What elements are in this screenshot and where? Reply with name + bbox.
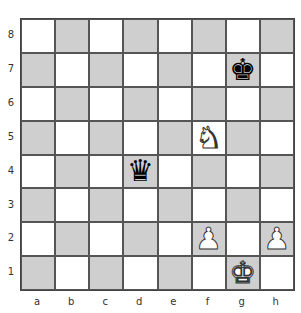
rank-label: 2 [6, 232, 16, 243]
square-g6[interactable] [226, 87, 260, 121]
square-e6[interactable] [158, 87, 192, 121]
square-c2[interactable] [89, 222, 123, 256]
square-f4[interactable] [192, 155, 226, 189]
white-pawn-icon[interactable]: ♟ [263, 224, 290, 254]
square-h1[interactable] [260, 256, 294, 290]
file-label: b [54, 296, 88, 307]
rank-label: 6 [6, 97, 16, 108]
square-c4[interactable] [89, 155, 123, 189]
rank-label: 8 [6, 29, 16, 40]
square-g8[interactable] [226, 19, 260, 53]
square-c7[interactable] [89, 53, 123, 87]
white-pawn-icon[interactable]: ♟ [195, 224, 222, 254]
square-a8[interactable] [21, 19, 55, 53]
square-e2[interactable] [158, 222, 192, 256]
white-king-icon[interactable]: ♚ [229, 258, 256, 288]
square-f5[interactable]: ♞ [192, 121, 226, 155]
file-label: h [259, 296, 293, 307]
square-a4[interactable] [21, 155, 55, 189]
square-b4[interactable] [55, 155, 89, 189]
file-label: d [122, 296, 156, 307]
square-d5[interactable] [123, 121, 157, 155]
square-g7[interactable]: ♚ [226, 53, 260, 87]
square-c6[interactable] [89, 87, 123, 121]
file-label: e [156, 296, 190, 307]
square-e7[interactable] [158, 53, 192, 87]
white-knight-icon[interactable]: ♞ [195, 123, 222, 153]
square-a2[interactable] [21, 222, 55, 256]
square-f7[interactable] [192, 53, 226, 87]
square-f6[interactable] [192, 87, 226, 121]
rank-label: 7 [6, 63, 16, 74]
square-d1[interactable] [123, 256, 157, 290]
square-e3[interactable] [158, 188, 192, 222]
square-f2[interactable]: ♟ [192, 222, 226, 256]
square-d3[interactable] [123, 188, 157, 222]
square-h3[interactable] [260, 188, 294, 222]
square-b7[interactable] [55, 53, 89, 87]
square-c1[interactable] [89, 256, 123, 290]
file-label: a [20, 296, 54, 307]
square-e4[interactable] [158, 155, 192, 189]
square-c8[interactable] [89, 19, 123, 53]
rank-label: 4 [6, 165, 16, 176]
file-label: c [88, 296, 122, 307]
square-a1[interactable] [21, 256, 55, 290]
square-a5[interactable] [21, 121, 55, 155]
square-h4[interactable] [260, 155, 294, 189]
square-g3[interactable] [226, 188, 260, 222]
square-d8[interactable] [123, 19, 157, 53]
square-h7[interactable] [260, 53, 294, 87]
square-f8[interactable] [192, 19, 226, 53]
chess-board: ♚♞♛♟♟♚ [20, 18, 295, 291]
file-label: f [191, 296, 225, 307]
black-queen-icon[interactable]: ♛ [127, 156, 154, 186]
file-label: g [225, 296, 259, 307]
square-g1[interactable]: ♚ [226, 256, 260, 290]
square-b5[interactable] [55, 121, 89, 155]
square-a3[interactable] [21, 188, 55, 222]
square-d4[interactable]: ♛ [123, 155, 157, 189]
square-f1[interactable] [192, 256, 226, 290]
rank-label: 5 [6, 131, 16, 142]
black-king-icon[interactable]: ♚ [229, 55, 256, 85]
square-c3[interactable] [89, 188, 123, 222]
rank-label: 1 [6, 266, 16, 277]
square-e8[interactable] [158, 19, 192, 53]
square-e5[interactable] [158, 121, 192, 155]
square-a6[interactable] [21, 87, 55, 121]
square-c5[interactable] [89, 121, 123, 155]
square-b3[interactable] [55, 188, 89, 222]
square-g2[interactable] [226, 222, 260, 256]
square-h6[interactable] [260, 87, 294, 121]
square-b8[interactable] [55, 19, 89, 53]
square-b6[interactable] [55, 87, 89, 121]
square-h2[interactable]: ♟ [260, 222, 294, 256]
square-g4[interactable] [226, 155, 260, 189]
square-d7[interactable] [123, 53, 157, 87]
square-a7[interactable] [21, 53, 55, 87]
square-d6[interactable] [123, 87, 157, 121]
square-h5[interactable] [260, 121, 294, 155]
square-b2[interactable] [55, 222, 89, 256]
square-h8[interactable] [260, 19, 294, 53]
square-d2[interactable] [123, 222, 157, 256]
square-e1[interactable] [158, 256, 192, 290]
square-b1[interactable] [55, 256, 89, 290]
square-g5[interactable] [226, 121, 260, 155]
square-f3[interactable] [192, 188, 226, 222]
rank-label: 3 [6, 199, 16, 210]
